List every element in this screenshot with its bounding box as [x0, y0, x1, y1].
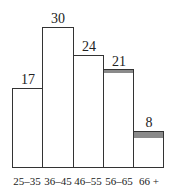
category-label: 46–55 — [72, 175, 104, 187]
bar-36-45 — [42, 27, 74, 168]
category-label: 66 + — [133, 175, 165, 187]
bar-66-plus — [133, 131, 164, 168]
value-label: 21 — [104, 55, 134, 69]
bar-shade — [104, 70, 133, 73]
category-label: 56–65 — [103, 175, 135, 187]
value-label: 30 — [43, 12, 73, 26]
bar-56-65 — [103, 69, 134, 168]
bar-46-55 — [73, 55, 104, 168]
bar-25-35 — [12, 88, 43, 168]
bar-shade — [134, 132, 163, 138]
value-label: 24 — [74, 40, 104, 54]
category-label: 36–45 — [42, 175, 74, 187]
category-label: 25–35 — [11, 175, 43, 187]
value-label: 17 — [13, 73, 43, 87]
value-label: 8 — [134, 116, 164, 130]
